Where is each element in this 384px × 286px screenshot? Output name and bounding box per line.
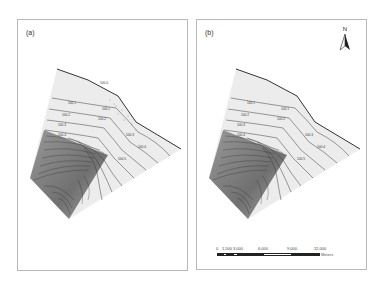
contour-map-a: 100.0 100.1 100.1 100.2 100.2 100.3 100.… bbox=[18, 20, 189, 272]
svg-text:100.5: 100.5 bbox=[297, 157, 305, 161]
map-panel-a: (a) bbox=[17, 19, 188, 271]
scale-bar: 0 1,500 3,000 6,000 9,000 12,000 Meters bbox=[215, 246, 365, 266]
scale-tick: 0 bbox=[216, 246, 218, 251]
svg-text:100.1: 100.1 bbox=[68, 101, 76, 105]
scale-unit: Meters bbox=[321, 252, 333, 257]
svg-text:100.1: 100.1 bbox=[102, 107, 110, 111]
svg-text:100.2: 100.2 bbox=[98, 117, 106, 121]
svg-text:100.3: 100.3 bbox=[58, 123, 66, 127]
scale-tick: 12,000 bbox=[314, 246, 326, 251]
svg-text:100.1: 100.1 bbox=[281, 107, 289, 111]
scale-tick: 6,000 bbox=[258, 246, 268, 251]
svg-text:100.2: 100.2 bbox=[62, 113, 70, 117]
svg-text:100.4: 100.4 bbox=[237, 133, 245, 137]
svg-text:100.5: 100.5 bbox=[118, 157, 126, 161]
scale-tick: 3,000 bbox=[233, 246, 243, 251]
svg-text:100.4: 100.4 bbox=[58, 133, 66, 137]
svg-text:100.1: 100.1 bbox=[247, 101, 255, 105]
scale-tick: 9,000 bbox=[287, 246, 297, 251]
svg-text:100.4: 100.4 bbox=[138, 145, 146, 149]
map-panel-b: (b) N bbox=[196, 19, 367, 270]
svg-text:100.3: 100.3 bbox=[237, 123, 245, 127]
svg-text:100.2: 100.2 bbox=[241, 113, 249, 117]
svg-text:100.3: 100.3 bbox=[126, 133, 134, 137]
svg-text:100.3: 100.3 bbox=[305, 133, 313, 137]
svg-text:100.0: 100.0 bbox=[100, 81, 108, 85]
svg-text:100.4: 100.4 bbox=[317, 145, 325, 149]
svg-text:100.2: 100.2 bbox=[277, 117, 285, 121]
scale-tick: 1,500 bbox=[222, 246, 232, 251]
contour-map-b: 100.1 100.1 100.2 100.2 100.3 100.3 100.… bbox=[197, 20, 368, 240]
